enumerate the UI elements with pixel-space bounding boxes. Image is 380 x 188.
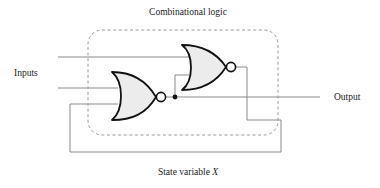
nor-gate-lower-inversion-bubble	[156, 92, 165, 101]
nor-gate-upper-inversion-bubble	[226, 62, 235, 71]
nor-gate-upper	[182, 45, 236, 90]
combinational-logic-title: Combinational logic	[149, 7, 227, 17]
output-label: Output	[334, 92, 361, 102]
wire-group	[58, 57, 320, 152]
inputs-label: Inputs	[14, 68, 38, 78]
logic-circuit-diagram: Combinational logic Inputs Output State …	[0, 0, 380, 188]
nor-gate-lower	[112, 72, 166, 120]
nor-gate-lower-body	[112, 72, 156, 120]
state-variable-junction-dot	[173, 95, 178, 100]
circuit-canvas: Combinational logic Inputs Output State …	[0, 0, 380, 188]
nor-gate-upper-body	[182, 45, 226, 90]
state-variable-label-variable: X	[211, 167, 219, 177]
state-variable-label: State variable X	[158, 167, 219, 177]
state-variable-label-prefix: State variable	[158, 167, 212, 177]
